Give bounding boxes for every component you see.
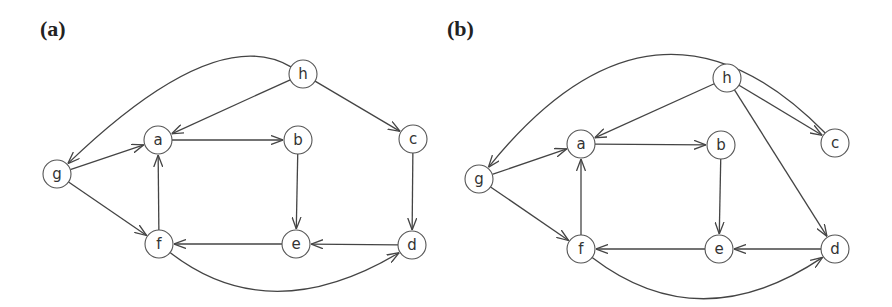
edge-f-to-d — [170, 253, 399, 292]
node-g: g — [43, 160, 71, 188]
edge-b-to-e — [719, 159, 720, 234]
node-label: a — [153, 131, 162, 149]
edge-h-to-c — [315, 81, 400, 131]
node-d: d — [821, 235, 849, 263]
edge-h-to-a — [595, 84, 715, 138]
edge-a-to-b — [595, 144, 706, 145]
edge-g-to-a — [492, 149, 567, 175]
node-label: c — [409, 130, 417, 148]
edge-h-to-d — [734, 90, 827, 236]
node-h: h — [289, 60, 317, 88]
node-label: g — [474, 170, 484, 188]
graph-panel-b: habcgfed — [465, 54, 849, 298]
edge-g-to-a — [70, 145, 144, 170]
node-label: b — [293, 131, 303, 149]
node-c: c — [821, 129, 849, 157]
edge-c-to-d — [412, 153, 413, 230]
node-h: h — [713, 64, 741, 92]
node-label: d — [407, 236, 417, 254]
node-e: e — [705, 235, 733, 263]
edge-c-to-g — [488, 54, 825, 167]
node-a: a — [144, 126, 172, 154]
node-f: f — [145, 230, 173, 258]
node-label: g — [52, 165, 62, 183]
edge-b-to-e — [296, 154, 297, 229]
node-label: f — [156, 235, 162, 253]
edge-f-to-d — [592, 257, 822, 298]
edge-g-to-f — [491, 187, 569, 241]
edge-h-to-g — [68, 56, 291, 164]
node-label: a — [576, 135, 585, 153]
node-c: c — [399, 125, 427, 153]
node-label: e — [714, 240, 723, 258]
node-a: a — [567, 130, 595, 158]
node-label: c — [831, 134, 839, 152]
edge-f-to-a — [158, 155, 159, 230]
node-g: g — [465, 165, 493, 193]
node-e: e — [282, 230, 310, 258]
graph-canvas: habcgfed habcgfed — [0, 0, 892, 307]
node-label: f — [578, 240, 584, 258]
edge-g-to-f — [69, 182, 147, 236]
edge-d-to-e — [311, 244, 398, 245]
node-label: b — [716, 136, 726, 154]
node-b: b — [284, 126, 312, 154]
node-label: h — [722, 69, 732, 87]
node-label: d — [830, 240, 840, 258]
graph-panel-a: habcgfed — [43, 56, 427, 291]
edge-h-to-a — [172, 80, 291, 134]
node-d: d — [398, 231, 426, 259]
edge-h-to-c — [739, 85, 822, 135]
node-f: f — [567, 235, 595, 263]
node-b: b — [707, 131, 735, 159]
node-label: h — [298, 65, 308, 83]
node-label: e — [291, 235, 300, 253]
